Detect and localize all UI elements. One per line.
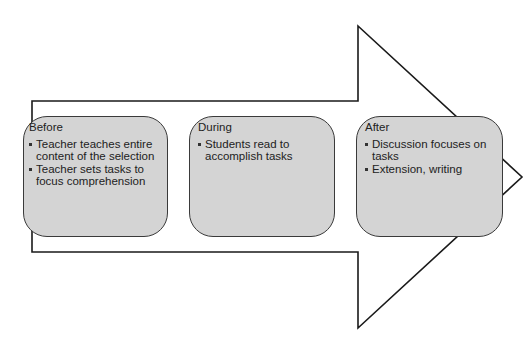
stage-box-before: Before Teacher teaches entire content of… xyxy=(23,116,168,237)
stage-title: Before xyxy=(29,121,159,134)
stage-bullet-list: Teacher teaches entire content of the se… xyxy=(29,138,159,188)
stage-title: After xyxy=(365,121,494,134)
stage-bullet-list: Discussion focuses on tasks Extension, w… xyxy=(365,138,494,176)
bullet-item: Teacher teaches entire content of the se… xyxy=(29,138,159,163)
stage-bullet-list: Students read to accomplish tasks xyxy=(198,138,326,163)
bullet-item: Students read to accomplish tasks xyxy=(198,138,326,163)
bullet-item: Discussion focuses on tasks xyxy=(365,138,494,163)
bullet-item: Extension, writing xyxy=(365,163,494,176)
bullet-item: Teacher sets tasks to focus comprehensio… xyxy=(29,163,159,188)
stage-box-after: After Discussion focuses on tasks Extens… xyxy=(356,116,503,237)
stage-box-during: During Students read to accomplish tasks xyxy=(189,116,335,237)
stage-title: During xyxy=(198,121,326,134)
